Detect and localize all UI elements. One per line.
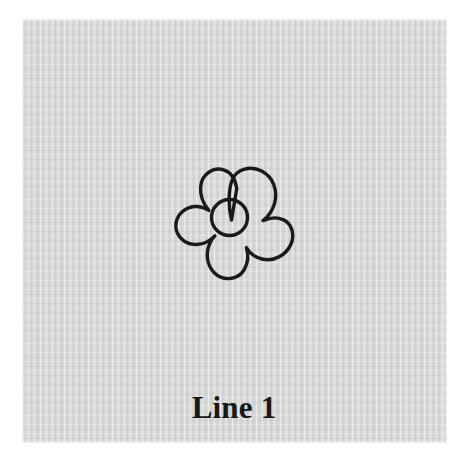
flower-petals-group: [176, 168, 293, 278]
flower-outline-svg: [168, 162, 296, 294]
petal-outline-path: [176, 168, 293, 278]
image-canvas: Line 1: [0, 0, 468, 461]
flower-outline-artwork: [168, 162, 296, 294]
caption-text: Line 1: [0, 391, 468, 425]
